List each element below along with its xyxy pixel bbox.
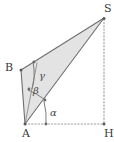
vertex-dot-H [103,123,106,126]
angle-label-beta: β [33,86,39,96]
vertex-label-S: S [104,3,112,14]
vertex-dot-B [20,69,23,72]
angle-arc-alpha [44,101,46,124]
vertex-label-A: A [22,128,30,139]
angle-label-gamma: γ [39,71,45,81]
angle-label-alpha: α [50,108,57,118]
arc-endpoint-dot-alpha [45,123,48,126]
vertex-dot-A [24,123,27,126]
vertex-label-H: H [104,128,114,139]
arc-endpoint-dot-beta-lower [44,99,47,102]
arc-endpoint-dot-beta-upper [28,88,31,91]
arc-endpoint-dot-C [33,61,36,64]
vertex-label-B: B [5,62,13,73]
geometry-figure: S B A H α β γ [0,0,114,142]
figure-canvas [0,0,114,142]
vertex-dot-S [103,17,106,20]
